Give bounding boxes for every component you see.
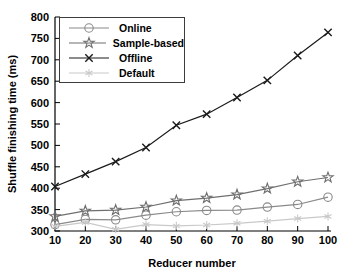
sample-based-marker-icon (66, 36, 106, 50)
legend-label: Offline (119, 52, 152, 64)
y-tick-label: 600 (31, 97, 49, 109)
x-marker (233, 94, 240, 101)
legend-item-sample-based: Sample-based (66, 35, 184, 50)
x-axis-label: Reducer number (148, 257, 235, 269)
y-tick-label: 800 (31, 11, 49, 23)
chart-figure: 3003504004505005506006507007508001020304… (0, 0, 352, 279)
x-marker (203, 110, 210, 117)
x-marker (264, 77, 271, 84)
legend-label: Sample-based (113, 37, 184, 49)
x-tick-label: 70 (231, 234, 243, 246)
x-marker (142, 144, 149, 151)
legend-label: Default (119, 67, 155, 79)
legend-item-online: Online (66, 20, 184, 35)
x-marker (173, 122, 180, 129)
y-tick-label: 300 (31, 225, 49, 237)
x-tick-label: 100 (319, 234, 337, 246)
x-marker (324, 29, 331, 36)
star-marker (323, 172, 333, 182)
x-tick-label: 90 (292, 234, 304, 246)
online-marker-icon (66, 21, 112, 35)
x-tick-label: 30 (110, 234, 122, 246)
y-tick-label: 400 (31, 182, 49, 194)
x-marker (112, 158, 119, 165)
series-line (55, 216, 328, 229)
legend-item-default: Default (66, 65, 184, 80)
y-tick-label: 450 (31, 161, 49, 173)
offline-marker-icon (66, 51, 112, 65)
x-tick-label: 60 (201, 234, 213, 246)
x-tick-label: 40 (140, 234, 152, 246)
y-tick-label: 500 (31, 139, 49, 151)
y-tick-label: 550 (31, 118, 49, 130)
y-tick-label: 700 (31, 54, 49, 66)
x-tick-label: 10 (49, 234, 61, 246)
y-axis-label: Shuffle finishing time (ms) (6, 55, 18, 193)
y-tick-label: 350 (31, 204, 49, 216)
series-sample-based (50, 172, 333, 221)
x-marker (294, 52, 301, 59)
y-tick-label: 650 (31, 75, 49, 87)
legend-item-offline: Offline (66, 50, 184, 65)
legend-label: Online (119, 22, 152, 34)
circle-marker (324, 193, 332, 201)
legend: OnlineSample-basedOfflineDefault (59, 17, 185, 83)
default-marker-icon (66, 66, 112, 80)
x-tick-label: 80 (261, 234, 273, 246)
x-tick-label: 50 (170, 234, 182, 246)
y-tick-label: 750 (31, 32, 49, 44)
x-marker (82, 170, 89, 177)
x-tick-label: 20 (79, 234, 91, 246)
series-default (52, 212, 332, 233)
